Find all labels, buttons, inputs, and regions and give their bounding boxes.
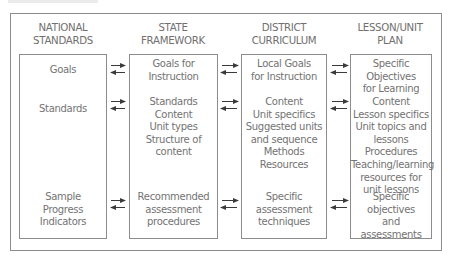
column-header-national-standards: NATIONAL STANDARDS — [10, 21, 116, 47]
arrow-left-icon — [220, 105, 237, 112]
national-standards-content: Standards — [20, 103, 106, 116]
arrow-right-icon — [111, 62, 126, 69]
header-line: STANDARDS — [10, 34, 116, 47]
arrow-right-icon — [332, 62, 349, 69]
box-district-curriculum: Local Goals for Instruction Content Unit… — [241, 54, 327, 239]
text-line: Methods — [242, 146, 326, 159]
district-content: Content Unit specifics Suggested units a… — [242, 96, 326, 172]
text-line: procedures — [130, 216, 217, 229]
arrow-left-icon — [110, 204, 125, 211]
text-line: objectives — [351, 204, 431, 217]
arrow-left-icon — [110, 69, 125, 76]
text-line: Content — [351, 96, 431, 109]
national-goals: Goals — [20, 64, 106, 77]
text-line: Goals for — [130, 58, 217, 71]
column-header-lesson-unit-plan: LESSON/UNIT PLAN — [338, 21, 442, 47]
arrow-left-icon — [220, 69, 237, 76]
arrow-right-icon — [222, 197, 239, 204]
box-state-framework: Goals for Instruction Standards Content … — [129, 54, 218, 239]
header-line: LESSON/UNIT — [338, 21, 442, 34]
arrow-right-icon — [111, 197, 126, 204]
text-line: Lesson specifics — [351, 109, 431, 122]
text-line: and sequence — [242, 134, 326, 147]
text-line: Recommended — [130, 191, 217, 204]
text-line: Indicators — [20, 216, 106, 229]
box-national-standards: Goals Standards Sample Progress Indicato… — [19, 54, 107, 239]
district-assessment: Specific assessment techniques — [242, 191, 326, 229]
arrow-right-icon — [222, 98, 239, 105]
text-line: Progress — [20, 204, 106, 217]
text-line: Specific Objectives — [351, 58, 431, 83]
lesson-goals: Specific Objectives for Learning — [351, 58, 431, 96]
arrow-left-icon — [110, 105, 125, 112]
header-line: PLAN — [338, 34, 442, 47]
header-line: NATIONAL — [10, 21, 116, 34]
text-line: Specific — [351, 191, 431, 204]
text-line: resources for — [351, 172, 431, 185]
text-line: for Instruction — [242, 71, 326, 84]
arrow-left-icon — [220, 204, 237, 211]
text-line: Procedures — [351, 146, 431, 159]
text-line: Specific — [242, 191, 326, 204]
text-line: Standards — [20, 103, 106, 116]
text-line: Goals — [20, 64, 106, 77]
text-line: for Learning — [351, 83, 431, 96]
box-lesson-unit-plan: Specific Objectives for Learning Content… — [350, 54, 432, 239]
arrow-left-icon — [330, 105, 347, 112]
header-line: STATE — [120, 21, 226, 34]
column-header-district-curriculum: DISTRICT CURRICULUM — [231, 21, 337, 47]
arrow-left-icon — [330, 69, 347, 76]
text-line: Unit types — [130, 121, 217, 134]
header-line: CURRICULUM — [231, 34, 337, 47]
text-line: content — [130, 146, 217, 159]
text-line: assessment — [242, 204, 326, 217]
state-content: Standards Content Unit types Structure o… — [130, 96, 217, 159]
text-line: Standards — [130, 96, 217, 109]
state-assessment: Recommended assessment procedures — [130, 191, 217, 229]
arrow-left-icon — [330, 204, 347, 211]
text-line: techniques — [242, 216, 326, 229]
text-line: Resources — [242, 159, 326, 172]
arrow-right-icon — [222, 62, 239, 69]
national-assessment: Sample Progress Indicators — [20, 191, 106, 229]
cropped-caption-fragment — [8, 0, 98, 3]
text-line: lessons — [351, 134, 431, 147]
text-line: Unit topics and — [351, 121, 431, 134]
header-line: DISTRICT — [231, 21, 337, 34]
text-line: Suggested units — [242, 121, 326, 134]
text-line: Local Goals — [242, 58, 326, 71]
text-line: Content — [242, 96, 326, 109]
header-line: FRAMEWORK — [120, 34, 226, 47]
arrow-right-icon — [332, 197, 349, 204]
text-line: Unit specifics — [242, 109, 326, 122]
arrow-right-icon — [111, 98, 126, 105]
text-line: Structure of — [130, 134, 217, 147]
arrow-right-icon — [332, 98, 349, 105]
text-line: Instruction — [130, 71, 217, 84]
text-line: and assessments — [351, 216, 431, 241]
text-line: assessment — [130, 204, 217, 217]
district-goals: Local Goals for Instruction — [242, 58, 326, 83]
lesson-assessment: Specific objectives and assessments — [351, 191, 431, 241]
text-line: Sample — [20, 191, 106, 204]
lesson-content: Content Lesson specifics Unit topics and… — [351, 96, 431, 197]
text-line: Content — [130, 109, 217, 122]
text-line: Teaching/learning — [351, 159, 431, 172]
column-header-state-framework: STATE FRAMEWORK — [120, 21, 226, 47]
state-goals: Goals for Instruction — [130, 58, 217, 83]
